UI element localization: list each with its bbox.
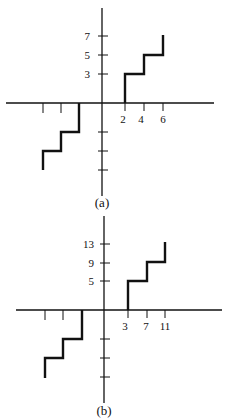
y-label-b-13: 13 [83, 238, 95, 250]
caption-b: (b) [96, 403, 111, 418]
caption-a: (a) [95, 195, 109, 210]
x-label-a-4: 4 [138, 113, 144, 125]
staircase-positive-b [128, 242, 165, 310]
panel-a: 7 5 3 2 4 6 (a) [6, 8, 214, 210]
staircase-negative-a [43, 103, 79, 170]
panel-b: 13 9 5 3 7 11 (b) [16, 216, 222, 418]
y-label-a-3: 3 [85, 68, 91, 80]
y-label-b-9: 9 [89, 257, 95, 269]
x-label-b-11: 11 [160, 320, 171, 332]
staircase-positive-a [125, 35, 163, 103]
x-label-a-2: 2 [120, 113, 126, 125]
x-label-b-7: 7 [143, 320, 149, 332]
staircase-negative-b [45, 310, 82, 378]
y-label-b-5: 5 [89, 275, 95, 287]
diagram-canvas: 7 5 3 2 4 6 (a) 13 9 5 3 7 [0, 0, 230, 419]
x-label-a-6: 6 [160, 113, 166, 125]
y-label-a-5: 5 [85, 49, 91, 61]
x-label-b-3: 3 [122, 320, 128, 332]
y-label-a-7: 7 [85, 30, 91, 42]
